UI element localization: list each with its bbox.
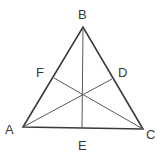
label-d: D (118, 65, 127, 80)
label-f: F (36, 65, 44, 80)
label-e: E (78, 138, 87, 153)
label-c: C (146, 127, 155, 142)
median-be (82, 27, 83, 128)
triangle-diagram: B F D A C E (0, 0, 163, 158)
label-a: A (5, 122, 14, 137)
label-b: B (78, 7, 87, 22)
